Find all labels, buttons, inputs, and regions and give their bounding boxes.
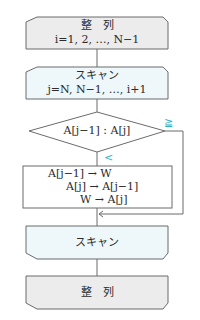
process-line-3: W → A[j] <box>80 193 127 207</box>
decision-text: A[j−1] : A[j] <box>29 124 165 138</box>
loop1-end-title: 整 列 <box>26 286 168 300</box>
flowchart <box>0 0 200 320</box>
loop1-start-condition: i=1, 2, …, N−1 <box>26 33 168 47</box>
process-line-1: A[j−1] → W <box>48 167 112 181</box>
loop2-end-title: スキャン <box>26 236 168 250</box>
loop2-start-condition: j=N, N−1, …, i+1 <box>26 83 168 97</box>
loop2-start-title: スキャン <box>26 69 168 83</box>
branch-ge-label: ≧ <box>164 116 173 129</box>
loop1-start-title: 整 列 <box>26 19 168 33</box>
process-line-2: A[j] → A[j−1] <box>66 180 138 194</box>
branch-lt-label: < <box>104 151 113 164</box>
